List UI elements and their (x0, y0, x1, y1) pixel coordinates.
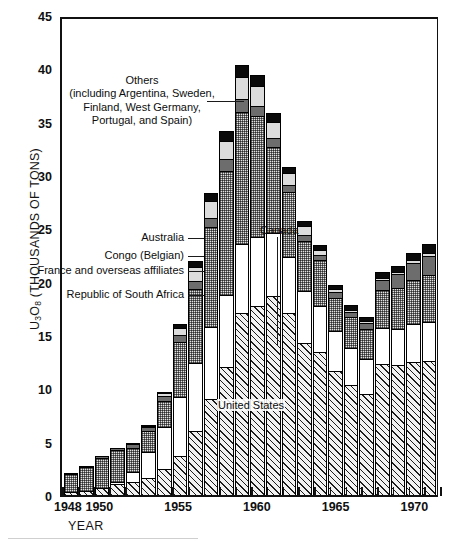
y-tick-label-45: 45 (26, 10, 52, 24)
bar-segment-australia-1957 (205, 202, 218, 219)
bar-segment-france-and-overseas-affiliates-1952 (127, 449, 140, 472)
bar-column-1962 (281, 19, 297, 495)
bar-segment-united-states-1970 (407, 363, 420, 495)
bar-segment-france-and-overseas-affiliates-1950 (96, 459, 109, 489)
y-tick-label-10: 10 (26, 383, 52, 397)
bar-segment-france-and-overseas-affiliates-1954 (158, 402, 171, 428)
bar-segment-france-and-overseas-affiliates-1970 (407, 281, 420, 326)
bar-segment-others-1961 (267, 113, 280, 123)
annotation-congo: Congo (Belgian) (40, 249, 184, 262)
bar-segment-australia-1971 (423, 254, 436, 257)
bar-segment-france-and-overseas-affiliates-1967 (360, 330, 373, 360)
bar-segment-australia-1967 (360, 322, 373, 324)
bar-segment-france-and-overseas-affiliates-1955 (174, 343, 187, 398)
x-tick-mark-14 (283, 487, 285, 496)
bar-segment-united-states-1958 (220, 368, 233, 495)
x-tick-mark-3 (109, 487, 111, 496)
bar-segment-australia-1965 (329, 290, 342, 293)
stacked-bar-1951 (110, 448, 125, 495)
bar-segment-united-states-1965 (329, 372, 342, 495)
bar-segment-republic-of-south-africa-1956 (189, 364, 202, 432)
stacked-bar-1956 (188, 261, 203, 495)
bar-column-1968 (375, 19, 391, 495)
bar-segment-republic-of-south-africa-1970 (407, 325, 420, 362)
x-tick-mark-20 (377, 487, 379, 496)
x-tick-mark-12 (251, 487, 253, 496)
x-tick-mark-11 (235, 487, 237, 496)
bar-segment-others-1970 (407, 253, 420, 262)
bar-segment-france-and-overseas-affiliates-1961 (267, 148, 280, 233)
canada-leader-line (277, 237, 278, 345)
y-tick-label-40: 40 (26, 63, 52, 77)
bar-segment-republic-of-south-africa-1963 (298, 292, 311, 343)
stacked-bar-1957 (204, 193, 219, 495)
bar-segment-united-states-1956 (189, 432, 202, 495)
stacked-bar-1964 (313, 245, 328, 495)
bar-segment-congo-belgian-1948 (65, 473, 78, 475)
x-tick-label-1960: 1960 (243, 500, 271, 514)
australia-leader-line (188, 238, 204, 239)
bar-segment-congo-belgian-1961 (267, 139, 280, 149)
france-leader-line (188, 271, 204, 272)
bar-segment-others-1971 (423, 244, 436, 254)
bar-column-1963 (297, 19, 313, 495)
bar-segment-others-1956 (189, 261, 202, 267)
south-africa-leader-line (188, 295, 204, 296)
bar-segment-united-states-1969 (392, 366, 405, 495)
x-tick-label-1970: 1970 (400, 500, 428, 514)
x-tick-label-1948: 1948 (54, 500, 82, 514)
bar-column-1961 (266, 19, 282, 495)
bar-segment-united-states-1948 (65, 493, 78, 495)
x-tick-mark-0 (62, 487, 64, 496)
bar-segment-congo-belgian-1959 (236, 100, 249, 113)
annotation-others: Others (including Argentina, Sweden, Fin… (62, 74, 222, 128)
y-tick-label-25: 25 (26, 223, 52, 237)
bar-column-1966 (343, 19, 359, 495)
x-tick-mark-8 (188, 487, 190, 496)
x-tick-mark-4 (125, 487, 127, 496)
bar-segment-congo-belgian-1949 (80, 466, 93, 468)
bar-segment-united-states-1950 (96, 489, 109, 495)
bar-segment-australia-1963 (298, 227, 311, 236)
bar-segment-congo-belgian-1971 (423, 257, 436, 276)
y-tick-label-30: 30 (26, 170, 52, 184)
bar-segment-australia-1969 (392, 273, 405, 275)
annotation-france: France and overseas affiliates (4, 264, 184, 277)
x-tick-mark-5 (141, 487, 143, 496)
x-tick-label-1950: 1950 (85, 500, 113, 514)
bar-segment-others-1955 (174, 324, 187, 328)
bar-segment-australia-1964 (314, 251, 327, 256)
x-tick-mark-10 (220, 487, 222, 496)
x-tick-mark-23 (424, 487, 426, 496)
bar-segment-republic-of-south-africa-1952 (127, 473, 140, 484)
x-tick-label-1955: 1955 (164, 500, 192, 514)
bar-column-1960 (250, 19, 266, 495)
congo-leader-line (188, 256, 204, 257)
bar-column-1970 (406, 19, 422, 495)
bar-segment-australia-1954 (158, 394, 171, 397)
bar-segment-australia-1968 (376, 279, 389, 281)
bar-segment-france-and-overseas-affiliates-1971 (423, 276, 436, 323)
stacked-bar-1968 (375, 272, 390, 495)
bar-segment-france-and-overseas-affiliates-1965 (329, 299, 342, 332)
bar-segment-france-and-overseas-affiliates-1959 (236, 113, 249, 245)
bar-segment-others-1966 (345, 305, 358, 310)
bar-segment-others-1953 (142, 425, 155, 427)
bar-segment-congo-belgian-1955 (174, 336, 187, 342)
annotation-others-line4: Portugal, and Spain) (62, 114, 222, 127)
stacked-bar-1961 (266, 113, 281, 495)
bar-segment-united-states-1963 (298, 344, 311, 495)
y-tick-label-35: 35 (26, 117, 52, 131)
x-axis-title: YEAR (68, 519, 104, 533)
bar-segment-australia-1960 (251, 87, 264, 107)
bar-segment-congo-belgian-1952 (127, 445, 140, 449)
bar-segment-congo-belgian-1970 (407, 264, 420, 281)
bar-segment-united-states-1949 (80, 492, 93, 495)
bar-segment-republic-of-south-africa-1962 (283, 258, 296, 313)
annotation-australia: Australia (60, 231, 184, 244)
stacked-bar-1958 (219, 131, 234, 495)
others-leader-line (207, 101, 244, 102)
bar-segment-france-and-overseas-affiliates-1960 (251, 117, 264, 238)
stacked-bar-1967 (359, 317, 374, 495)
bar-segment-australia-1958 (220, 142, 233, 160)
